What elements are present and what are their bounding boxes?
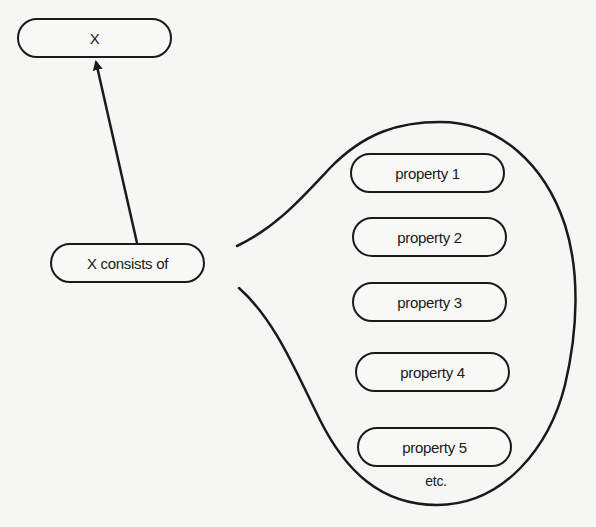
node-x-consists-of: X consists of xyxy=(50,243,205,283)
node-property-1: property 1 xyxy=(350,153,505,193)
property-label: property 1 xyxy=(395,166,460,181)
node-x-consists-of-label: X consists of xyxy=(87,256,168,271)
node-property-5: property 5 xyxy=(357,427,512,467)
property-label: property 3 xyxy=(397,295,462,310)
property-label: property 5 xyxy=(402,440,467,455)
node-property-4: property 4 xyxy=(355,352,510,392)
node-x: X xyxy=(17,18,172,58)
node-x-label: X xyxy=(90,31,100,46)
etc-label: etc. xyxy=(425,473,446,489)
node-property-3: property 3 xyxy=(352,282,507,322)
diagram-canvas: X X consists of property 1 property 2 pr… xyxy=(0,0,596,527)
arrow-consists-to-x xyxy=(96,62,137,243)
node-property-2: property 2 xyxy=(352,217,507,257)
property-label: property 4 xyxy=(400,365,465,380)
property-label: property 2 xyxy=(397,230,462,245)
